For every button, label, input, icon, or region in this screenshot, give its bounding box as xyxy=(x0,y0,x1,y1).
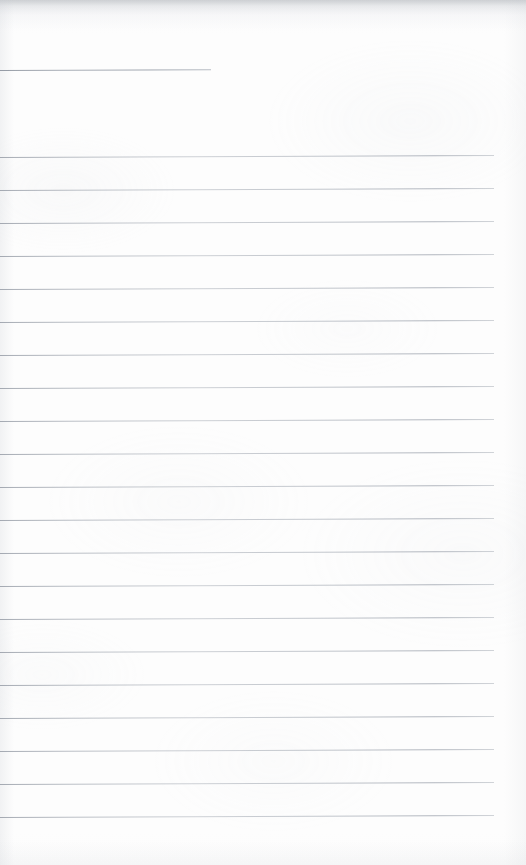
paper-background xyxy=(0,0,526,865)
scanned-page xyxy=(0,0,526,865)
